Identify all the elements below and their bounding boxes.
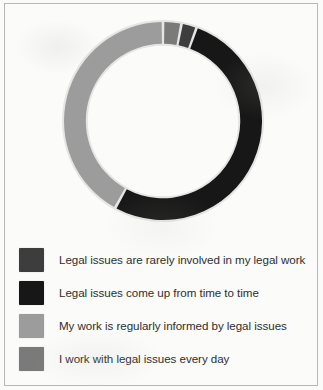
legend-swatch-rarely-involved — [19, 248, 44, 272]
legend-item-every-day[interactable]: I work with legal issues every day — [19, 342, 311, 375]
legend-item-rarely-involved[interactable]: Legal issues are rarely involved in my l… — [19, 243, 311, 276]
legend-label-every-day: I work with legal issues every day — [59, 352, 229, 366]
donut-chart-svg — [0, 0, 323, 238]
legend-label-time-to-time: Legal issues come up from time to time — [59, 286, 259, 300]
legend-item-time-to-time[interactable]: Legal issues come up from time to time — [19, 276, 311, 309]
chart-plot-area — [0, 0, 323, 238]
legend-label-regularly-informed: My work is regularly informed by legal i… — [59, 319, 287, 333]
legend-swatch-time-to-time — [19, 281, 44, 305]
donut-chart-figure: Legal issues are rarely involved in my l… — [0, 0, 323, 390]
legend-swatch-every-day — [19, 347, 44, 371]
legend-item-regularly-informed[interactable]: My work is regularly informed by legal i… — [19, 309, 311, 342]
legend-swatch-regularly-informed — [19, 314, 44, 338]
donut-slice-group — [64, 22, 262, 220]
legend-label-rarely-involved: Legal issues are rarely involved in my l… — [59, 253, 305, 267]
chart-legend: Legal issues are rarely involved in my l… — [19, 243, 311, 375]
